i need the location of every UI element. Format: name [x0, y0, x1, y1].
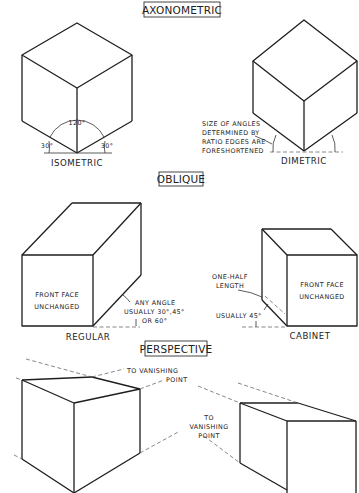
regular-face-line-2: UNCHANGED: [34, 303, 79, 311]
dimetric-angle-marks: [255, 135, 343, 152]
cabinet-label: CABINET: [290, 331, 331, 341]
svg-text:ANY ANGLE: ANY ANGLE: [135, 299, 175, 307]
perspective-box-left: [22, 377, 140, 493]
svg-text:TO: TO: [203, 414, 214, 422]
perspective-box-right: [240, 403, 356, 493]
svg-text:VANISHING: VANISHING: [189, 423, 228, 431]
dimetric-note: SIZE OF ANGLES DETERMINED BY RATIO EDGES…: [202, 120, 266, 155]
axonometric-section: AXONOMETRIC 120° 30° 30° ISOMETRIC: [22, 2, 357, 168]
isometric-cube: [22, 23, 132, 153]
svg-text:SIZE OF ANGLES: SIZE OF ANGLES: [202, 120, 261, 128]
isometric-angle-120: 120°: [69, 119, 86, 127]
svg-text:DETERMINED BY: DETERMINED BY: [202, 129, 260, 137]
perspective-note-top: TO VANISHING POINT: [126, 367, 187, 384]
cabinet-angle-note: USUALLY 45°: [216, 312, 262, 320]
drawing-types-diagram: AXONOMETRIC 120° 30° 30° ISOMETRIC: [0, 0, 359, 493]
svg-text:POINT: POINT: [166, 376, 187, 384]
cabinet-depth-note: ONE-HALF LENGTH: [212, 273, 248, 290]
svg-text:ONE-HALF: ONE-HALF: [212, 273, 248, 281]
regular-angle-note: ANY ANGLE USUALLY 30°,45° OR 60°: [124, 299, 185, 325]
perspective-note-mid: TO VANISHING POINT: [189, 414, 228, 440]
svg-text:FORESHORTENED: FORESHORTENED: [202, 147, 264, 155]
svg-text:OR 60°: OR 60°: [142, 317, 167, 325]
cabinet-face-line-2: UNCHANGED: [299, 293, 344, 301]
isometric-angle-30-right: 30°: [101, 142, 114, 150]
isometric-label: ISOMETRIC: [51, 158, 103, 168]
oblique-section: OBLIQUE FRONT FACE UNCHANGED ANY ANGLE U…: [22, 172, 357, 342]
dimetric-cube: [253, 20, 357, 151]
axonometric-header: AXONOMETRIC: [142, 4, 222, 16]
svg-text:POINT: POINT: [198, 432, 219, 440]
svg-text:LENGTH: LENGTH: [216, 282, 244, 290]
oblique-header: OBLIQUE: [157, 173, 205, 185]
svg-text:USUALLY 30°,45°: USUALLY 30°,45°: [124, 308, 185, 316]
cabinet-face-line-1: FRONT FACE: [300, 281, 344, 289]
svg-text:RATIO EDGES ARE: RATIO EDGES ARE: [202, 138, 266, 146]
regular-face-line-1: FRONT FACE: [35, 291, 79, 299]
perspective-header: PERSPECTIVE: [140, 343, 213, 355]
regular-label: REGULAR: [66, 332, 111, 342]
perspective-section: PERSPECTIVE TO VANISHING POINT: [14, 341, 356, 493]
cabinet-oblique-box: [262, 229, 357, 326]
svg-text:TO VANISHING: TO VANISHING: [126, 367, 178, 375]
isometric-angle-30-left: 30°: [41, 142, 54, 150]
dimetric-label: DIMETRIC: [281, 156, 327, 166]
